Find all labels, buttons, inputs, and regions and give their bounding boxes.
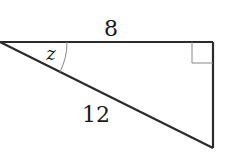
triangle-diagram: 8 12 z [0,0,227,152]
hypotenuse-label: 12 [82,102,110,127]
hypotenuse [0,42,213,148]
angle-label: z [45,43,56,64]
angle-arc [60,42,67,72]
top-side-label: 8 [104,16,118,41]
right-angle-marker [192,42,213,63]
